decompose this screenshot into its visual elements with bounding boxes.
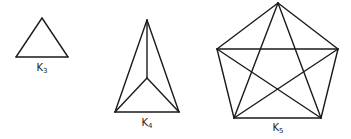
graph-edge: [115, 20, 147, 112]
graph-edge: [16, 18, 42, 57]
graph-k5: [217, 3, 338, 118]
graph-edge: [234, 49, 338, 118]
label-k4: K4: [141, 117, 152, 130]
complete-graphs-diagram: [0, 0, 351, 139]
graph-edge: [217, 49, 321, 118]
label-k3: K3: [36, 62, 47, 75]
graph-k3: [16, 18, 68, 57]
graph-k4: [115, 20, 179, 112]
graph-edge: [147, 20, 179, 112]
graph-edge: [147, 78, 179, 112]
graph-edge: [42, 18, 68, 57]
graph-edge: [115, 78, 147, 112]
label-k5: K5: [272, 122, 283, 135]
